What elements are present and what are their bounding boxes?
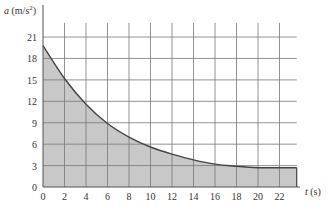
svg-text:14: 14 [189, 191, 199, 202]
x-axis-label: t (s) [305, 186, 321, 198]
svg-text:10: 10 [146, 191, 156, 202]
svg-text:18: 18 [27, 53, 37, 64]
svg-text:21: 21 [27, 32, 37, 43]
y-tick-labels: 036912151821 [27, 32, 37, 193]
svg-text:20: 20 [253, 191, 263, 202]
svg-text:16: 16 [210, 191, 220, 202]
svg-text:18: 18 [232, 191, 242, 202]
x-tick-labels: 0246810121416182022 [41, 191, 285, 202]
svg-text:9: 9 [32, 118, 37, 129]
svg-text:8: 8 [127, 191, 132, 202]
svg-text:0: 0 [41, 191, 46, 202]
svg-text:22: 22 [275, 191, 285, 202]
svg-text:6: 6 [32, 139, 37, 150]
svg-text:0: 0 [32, 182, 37, 193]
svg-text:6: 6 [105, 191, 110, 202]
svg-text:12: 12 [27, 96, 37, 107]
acceleration-chart: 0246810121416182022 036912151821 a (m/s2… [0, 0, 328, 207]
svg-text:4: 4 [84, 191, 89, 202]
y-axis-label: a (m/s2) [4, 4, 36, 17]
svg-text:15: 15 [27, 75, 37, 86]
svg-text:2: 2 [62, 191, 67, 202]
svg-text:12: 12 [167, 191, 177, 202]
svg-text:3: 3 [32, 161, 37, 172]
